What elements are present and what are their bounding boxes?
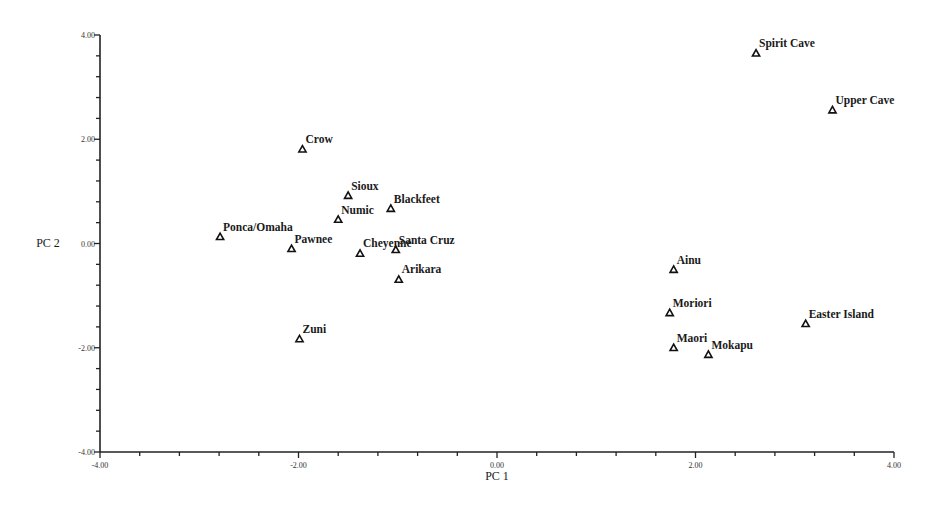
data-point: Blackfeet [387,193,440,212]
data-points: Spirit CaveUpper CaveCrowSiouxBlackfeetN… [216,37,894,357]
point-label: Spirit Cave [759,37,815,50]
y-tick-label: -4.00 [78,448,95,457]
data-point: Arikara [395,263,441,282]
axes: -4.00-2.000.002.004.00 4.002.000.00-2.00… [78,31,901,470]
triangle-marker-icon [802,320,809,326]
y-axis-ticks: 4.002.000.00-2.00-4.00 [78,31,100,457]
y-tick-label: 0.00 [81,240,95,249]
data-point: Sioux [345,180,379,199]
y-tick-label: 4.00 [81,31,95,40]
data-point: Pawnee [288,233,332,252]
x-tick-label: -4.00 [92,461,109,470]
point-label: Maori [677,332,708,344]
data-point: Santa Cruz [392,234,455,253]
point-label: Mokapu [711,339,753,352]
x-tick-label: 4.00 [887,461,901,470]
point-label: Moriori [673,297,713,309]
triangle-marker-icon [395,276,402,282]
y-axis-title: PC 2 [36,236,60,250]
triangle-marker-icon [670,266,677,272]
data-point: Spirit Cave [752,37,815,56]
data-point: Ainu [670,254,701,273]
point-label: Arikara [402,263,442,275]
y-tick-label: -2.00 [78,344,95,353]
point-label: Santa Cruz [399,234,455,246]
triangle-marker-icon [705,351,712,357]
point-label: Sioux [351,180,379,192]
data-point: Maori [670,332,708,351]
point-label: Pawnee [295,233,333,245]
triangle-marker-icon [299,146,306,152]
triangle-marker-icon [829,106,836,112]
x-tick-label: 2.00 [689,461,703,470]
triangle-marker-icon [216,233,223,239]
data-point: Upper Cave [829,94,894,113]
point-label: Blackfeet [394,193,440,205]
triangle-marker-icon [666,309,673,315]
triangle-marker-icon [345,192,352,198]
triangle-marker-icon [752,50,759,56]
point-label: Zuni [302,323,326,335]
point-label: Ainu [677,254,702,266]
x-tick-label: -2.00 [290,461,307,470]
data-point: Mokapu [705,339,754,358]
triangle-marker-icon [335,216,342,222]
triangle-marker-icon [288,245,295,251]
data-point: Easter Island [802,308,874,327]
triangle-marker-icon [296,335,303,341]
triangle-marker-icon [670,344,677,350]
data-point: Numic [335,204,374,223]
x-axis-title: PC 1 [485,469,509,483]
triangle-marker-icon [387,205,394,211]
data-point: Ponca/Omaha [216,221,292,240]
x-axis-ticks: -4.00-2.000.002.004.00 [92,452,901,470]
point-label: Ponca/Omaha [223,221,293,233]
data-point: Crow [299,133,334,152]
triangle-marker-icon [356,250,363,256]
point-label: Crow [305,133,333,145]
data-point: Moriori [666,297,712,316]
point-label: Upper Cave [835,94,894,107]
data-point: Zuni [296,323,327,342]
point-label: Easter Island [809,308,875,320]
point-label: Numic [341,204,374,216]
y-tick-label: 2.00 [81,135,95,144]
scatter-plot: -4.00-2.000.002.004.00 4.002.000.00-2.00… [0,0,933,515]
